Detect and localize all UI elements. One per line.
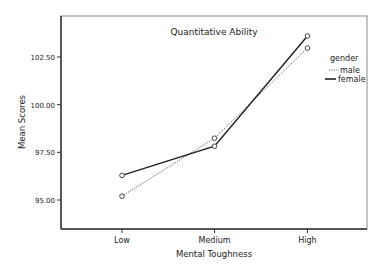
y-axis-label: Mean Scores (17, 94, 27, 149)
data-point-male (305, 46, 310, 51)
data-point-male (120, 194, 125, 199)
x-axis-label: Mental Toughness (176, 249, 253, 259)
y-tick-label: 97.50 (35, 149, 55, 157)
x-tick-label: Medium (199, 236, 231, 245)
chart-title: Quantitative Ability (170, 27, 258, 37)
legend-female-label: female (338, 75, 366, 84)
data-point-female (212, 144, 217, 149)
x-tick-label: Low (114, 236, 130, 245)
data-point-female (305, 34, 310, 39)
data-point-female (120, 173, 125, 178)
x-axis-ticks: LowMediumHigh (114, 229, 317, 245)
plot-area (61, 16, 367, 229)
y-tick-label: 102.50 (31, 54, 56, 62)
y-tick-label: 100.00 (31, 102, 56, 110)
legend-title: gender (330, 54, 359, 63)
chart-container: Quantitative Ability 95.0097.50100.00102… (0, 0, 384, 272)
y-tick-label: 95.00 (35, 197, 55, 205)
data-point-male (212, 136, 217, 141)
legend-male-label: male (340, 66, 360, 75)
y-axis-ticks: 95.0097.50100.00102.50 (31, 54, 62, 205)
x-tick-label: High (298, 236, 316, 245)
